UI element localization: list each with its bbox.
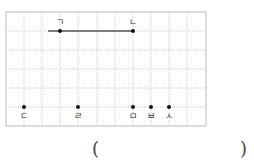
point xyxy=(149,105,153,109)
point xyxy=(167,105,171,109)
point xyxy=(131,29,135,33)
point-label: ㅂ xyxy=(147,111,155,121)
point-label: ㄴ xyxy=(129,17,137,27)
point-label: ㄷ xyxy=(20,111,28,121)
point-label: ㄹ xyxy=(74,111,82,121)
answer-open-paren: ( xyxy=(92,138,99,159)
answer-close-paren: ) xyxy=(240,138,247,159)
point xyxy=(76,105,80,109)
point-label: ㄱ xyxy=(56,17,64,27)
point xyxy=(22,105,26,109)
point xyxy=(131,105,135,109)
point-label: ㅅ xyxy=(165,111,173,121)
point xyxy=(58,29,62,33)
grid-diagram: ㄱㄴㄷㄹㅁㅂㅅ xyxy=(0,0,254,135)
point-label: ㅁ xyxy=(129,111,137,121)
